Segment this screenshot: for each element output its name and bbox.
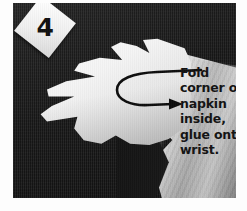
step-number-label: 4: [37, 15, 54, 40]
instruction-caption: Fold corner of napkin inside, glue onto …: [180, 65, 236, 157]
photo-page: 4 Fold corner of napkin inside, glue ont…: [0, 0, 247, 211]
caption-line: Fold: [180, 65, 236, 80]
caption-line: glue onto: [180, 127, 236, 142]
caption-line: corner of: [180, 80, 236, 95]
caption-line: napkin: [180, 96, 236, 111]
caption-line: inside,: [180, 111, 236, 126]
caption-line: wrist.: [180, 142, 236, 157]
instruction-photograph: 4 Fold corner of napkin inside, glue ont…: [13, 3, 236, 198]
